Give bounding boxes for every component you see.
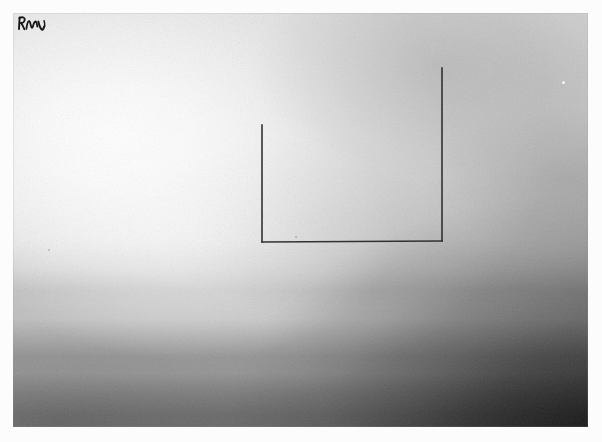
paper-grain-highlight-icon — [13, 13, 588, 427]
light-speck-blemish — [562, 81, 565, 84]
dark-fleck-lower — [295, 236, 297, 238]
artwork-plate — [13, 13, 588, 427]
dark-fleck-left — [48, 249, 50, 251]
artwork-page: Untitled (open rectangle on tonal ground… — [0, 0, 602, 442]
artist-signature — [13, 13, 66, 38]
